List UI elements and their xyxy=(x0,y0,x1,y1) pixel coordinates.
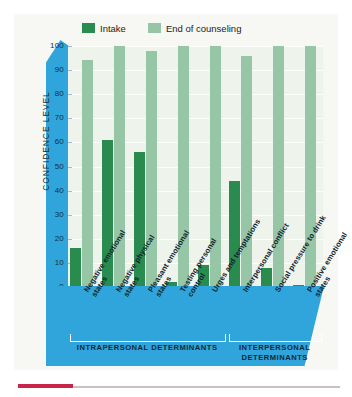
group-bracket xyxy=(229,334,322,342)
legend-swatch-end-of-counseling xyxy=(148,23,161,33)
legend-label-intake: Intake xyxy=(100,23,126,34)
y-tick-label: 100 xyxy=(40,42,64,50)
bar-chart-figure: 0102030405060708090100 CONFIDENCE LEVEL … xyxy=(22,18,332,366)
y-tick-label: 20 xyxy=(40,235,64,243)
accent-rule xyxy=(18,384,73,388)
bar-end-of-counseling xyxy=(82,60,93,287)
legend-item-intake: Intake xyxy=(82,23,126,34)
y-tick-label: 10 xyxy=(40,259,64,267)
group-caption: INTERPERSONAL DETERMINANTS xyxy=(211,343,338,363)
chart-legend: Intake End of counseling xyxy=(82,20,241,36)
legend-item-end-of-counseling: End of counseling xyxy=(148,23,242,34)
legend-swatch-intake xyxy=(82,23,95,33)
bar-intake xyxy=(70,248,81,287)
y-tick-label: 30 xyxy=(40,211,64,219)
figure-page: 0102030405060708090100 CONFIDENCE LEVEL … xyxy=(0,0,352,397)
bar-group xyxy=(68,46,100,287)
legend-label-end-of-counseling: End of counseling xyxy=(166,23,242,34)
group-bracket xyxy=(70,334,226,342)
y-axis-title: CONFIDENCE LEVEL xyxy=(41,71,51,211)
